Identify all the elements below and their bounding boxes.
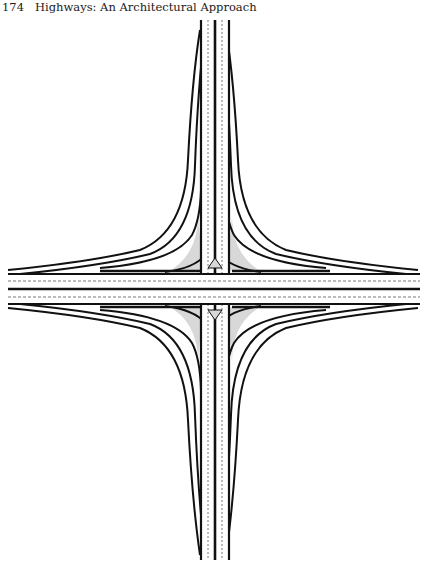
horizontal-highway — [8, 271, 420, 307]
interchange-drawing — [0, 0, 426, 561]
